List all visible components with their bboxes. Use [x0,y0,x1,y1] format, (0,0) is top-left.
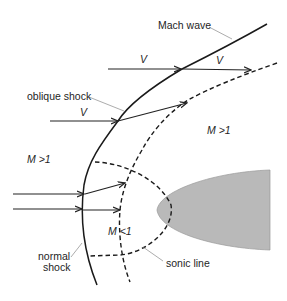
sonic-line-leader [143,247,163,261]
mach-wave-label: Mach wave [158,19,211,31]
mach-supersonic-left-label: M >1 [27,153,51,165]
blunt-body [157,170,270,250]
sonic-line-label: sonic line [166,257,210,269]
velocity-arrow-top-downstream [182,69,251,70]
normal-shock-leader [71,243,82,257]
velocity-label-top-left: V [140,53,148,65]
normal-shock-label-line2: shock [43,261,71,273]
mach-subsonic-label: M <1 [108,225,132,237]
oblique-shock-label: oblique shock [27,90,92,102]
shock-diagram: Mach wave oblique shock normal shock son… [0,0,287,301]
velocity-label-top-right: V [216,54,224,66]
mach-wave-leader [209,27,232,39]
mach-supersonic-right-label: M >1 [207,124,231,136]
oblique-shock-leader [89,97,124,111]
velocity-arrow-mid-deflected [118,103,187,121]
velocity-arrow-low1-deflected [85,183,125,194]
velocity-label-mid: V [80,106,88,118]
